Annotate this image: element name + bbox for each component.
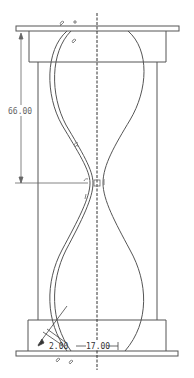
horizontal-icon <box>73 20 77 24</box>
coincident-icon <box>85 194 86 199</box>
left-glass-profile-inner[interactable] <box>55 31 93 351</box>
tangent-icon <box>84 179 88 181</box>
constraint-top-2 <box>72 39 76 43</box>
constraint-bottom-1 <box>56 358 60 362</box>
constraint-bottom-2 <box>69 360 73 364</box>
dim-offset-label[interactable]: 2.00 <box>49 342 68 351</box>
arrow-down-icon <box>19 177 23 183</box>
dim-width-label[interactable]: 17.00 <box>86 342 110 351</box>
right-glass-profile[interactable] <box>103 31 144 351</box>
constraint-top-1 <box>60 21 64 26</box>
left-glass-profile-outer[interactable] <box>50 31 90 351</box>
dim-height-label[interactable]: 66.00 <box>8 107 32 116</box>
drawing-canvas[interactable]: 66.00 2.00 17.00 <box>0 0 194 378</box>
arrow-leader-icon <box>38 339 44 346</box>
arrow-up-icon <box>19 33 23 39</box>
